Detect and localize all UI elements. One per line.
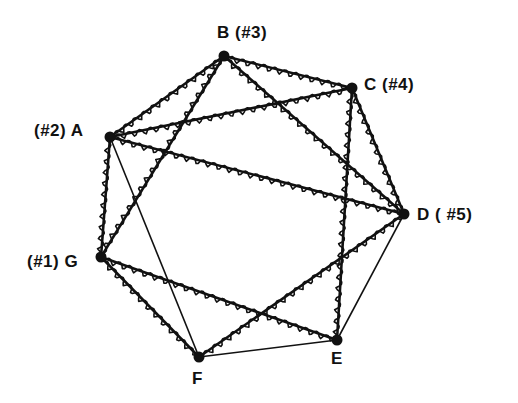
edge-e-d-straight — [337, 214, 404, 340]
vertex-f — [194, 352, 205, 363]
vertex-g — [96, 252, 107, 263]
vertex-label-c: C (#4) — [364, 76, 414, 93]
vertex-label-e: E — [331, 350, 343, 367]
edge-b-g-wavy — [101, 56, 224, 257]
vertex-label-d: D ( #5) — [417, 206, 472, 223]
vertex-b — [219, 51, 230, 62]
edge-g-e-wavy — [101, 257, 337, 341]
edge-f-d-wavy — [199, 214, 404, 357]
nodes-layer — [96, 51, 410, 363]
vertex-a — [105, 132, 116, 143]
vertex-e — [332, 335, 343, 346]
edge-a-c-wavy — [110, 88, 352, 138]
edge-c-d-wavy — [352, 88, 404, 214]
edge-c-e-wavy — [333, 88, 353, 340]
vertex-label-b: B (#3) — [217, 24, 267, 41]
edges-layer — [98, 56, 404, 357]
vertex-label-f: F — [192, 370, 203, 387]
vertex-label-g: (#1) G — [27, 253, 78, 270]
graph-diagram — [0, 0, 518, 403]
vertex-label-a: (#2) A — [34, 122, 84, 139]
vertex-c — [347, 83, 358, 94]
edge-a-g-wavy — [98, 137, 111, 257]
edge-g-f-wavy — [101, 257, 199, 357]
vertex-d — [399, 209, 410, 220]
